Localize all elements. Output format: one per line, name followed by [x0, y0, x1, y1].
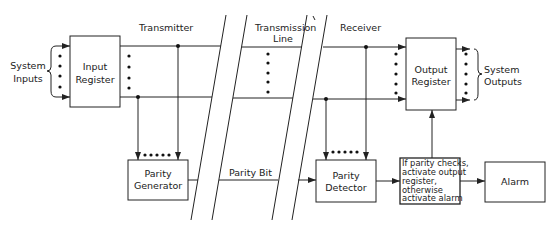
system-inputs-brace	[47, 46, 56, 97]
output-register-label-2: Register	[406, 76, 456, 87]
junction-dot-tx-bottom	[136, 95, 140, 99]
junction-dot-rx-top	[364, 45, 368, 49]
junction-dot-rx-bottom	[324, 97, 328, 101]
transmitter-label: Transmitter	[139, 22, 193, 33]
decision-text-5: activate alarm	[402, 194, 463, 203]
system-outputs-brace	[474, 49, 482, 100]
system-inputs-label-2: Inputs	[10, 73, 46, 84]
alarm-label: Alarm	[485, 176, 545, 187]
transmission-line-label-2: Line	[255, 33, 311, 44]
tick-mark	[313, 16, 315, 20]
parity-generator-label-1: Parity	[128, 168, 188, 179]
input-register-label-2: Register	[70, 74, 120, 85]
parity-generator-label-2: Generator	[128, 180, 188, 191]
input-register-label-1: Input	[70, 61, 120, 72]
system-outputs-label-2: Outputs	[484, 76, 522, 87]
parity-detector-label-1: Parity	[316, 170, 376, 181]
system-outputs-label-1: System	[484, 64, 519, 75]
transmission-line-label-1: Transmission	[255, 22, 311, 33]
system-inputs-label-1: System	[10, 60, 46, 71]
break-slash-2a	[272, 15, 307, 220]
parity-detector-box	[316, 160, 376, 202]
output-register-label-1: Output	[406, 64, 456, 75]
junction-dot-tx-top	[176, 44, 180, 48]
parity-bit-label: Parity Bit	[229, 167, 272, 178]
receiver-label: Receiver	[340, 22, 381, 33]
parity-detector-label-2: Detector	[316, 182, 376, 193]
